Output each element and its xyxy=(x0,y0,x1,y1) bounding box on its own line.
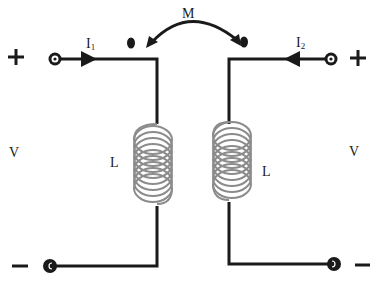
mutual-inductance-arrow xyxy=(146,21,241,48)
current-label-i1: I1 xyxy=(86,37,95,52)
dot-marker-left xyxy=(127,38,135,49)
right-top-wire xyxy=(229,59,331,124)
current-label-i2: I2 xyxy=(296,36,305,51)
current-arrow-i2 xyxy=(284,51,300,67)
right-inductor-coil xyxy=(213,122,251,200)
right-bottom-wire xyxy=(229,202,334,264)
left-inductor-coil xyxy=(134,124,172,204)
right-bottom-terminal xyxy=(327,257,341,271)
coupled-inductor-diagram xyxy=(0,0,379,281)
left-top-terminal xyxy=(49,53,62,66)
left-top-wire xyxy=(55,59,157,124)
right-plus-sign xyxy=(350,50,366,66)
left-plus-sign xyxy=(8,49,24,65)
right-inductor-label: L xyxy=(262,165,271,179)
left-bottom-wire xyxy=(50,206,157,266)
current-arrow-i1 xyxy=(81,51,97,67)
dot-marker-right xyxy=(240,37,248,48)
left-voltage-label: V xyxy=(9,146,19,160)
left-bottom-terminal xyxy=(43,259,57,273)
current-subscript: 2 xyxy=(301,41,306,51)
right-voltage-label: V xyxy=(349,145,359,159)
right-top-terminal xyxy=(325,53,338,66)
current-subscript: 1 xyxy=(91,42,96,52)
left-inductor-label: L xyxy=(110,156,119,170)
mutual-inductance-label: M xyxy=(182,7,194,21)
